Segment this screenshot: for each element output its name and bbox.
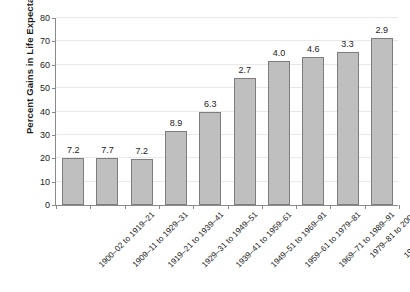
x-tick-mark — [228, 205, 229, 209]
x-tick-mark — [365, 205, 366, 209]
bar — [131, 159, 153, 205]
y-tick-label: 80 — [40, 13, 50, 23]
x-tick-mark — [262, 205, 263, 209]
y-tick-label: 60 — [40, 60, 50, 70]
bar — [337, 52, 359, 205]
x-axis-labels: 1900–02 to 1919–211909–11 to 1929–311919… — [0, 210, 410, 292]
bar — [62, 158, 84, 205]
bar — [234, 78, 256, 205]
bar-value-label: 7.7 — [101, 145, 114, 155]
x-tick-mark — [399, 205, 400, 209]
bar — [96, 158, 118, 205]
bar-value-label: 7.2 — [67, 145, 80, 155]
y-tick-label: 0 — [45, 200, 50, 210]
x-tick-mark — [90, 205, 91, 209]
y-tick-label: 20 — [40, 153, 50, 163]
bar-value-label: 4.0 — [273, 48, 286, 58]
x-tick-mark — [56, 205, 57, 209]
x-tick-mark — [193, 205, 194, 209]
bar-value-label: 4.6 — [307, 44, 320, 54]
plot-area: 01020304050607080 7.27.77.28.96.32.74.04… — [55, 18, 398, 206]
bar — [268, 61, 290, 205]
bar-value-label: 2.9 — [376, 25, 389, 35]
bar-value-label: 6.3 — [204, 99, 217, 109]
bar-slot: 7.2 — [56, 18, 90, 205]
bar-value-label: 2.7 — [238, 65, 251, 75]
bar-slot: 3.3 — [330, 18, 364, 205]
bar-slot: 4.0 — [262, 18, 296, 205]
bar-slot: 2.7 — [228, 18, 262, 205]
y-axis-title: Percent Gains in Life Expectancy — [24, 0, 35, 145]
y-tick-label: 50 — [40, 83, 50, 93]
y-tick-label: 40 — [40, 107, 50, 117]
bar-value-label: 8.9 — [170, 118, 183, 128]
bar — [199, 112, 221, 205]
bar-slot: 7.2 — [125, 18, 159, 205]
bar-slot: 7.7 — [90, 18, 124, 205]
y-tick-label: 30 — [40, 130, 50, 140]
bar — [371, 38, 393, 205]
bar-slot: 2.9 — [365, 18, 399, 205]
x-tick-mark — [125, 205, 126, 209]
bar — [302, 57, 324, 205]
x-axis-category-label: 1900–02 to 1919–21 — [97, 210, 156, 269]
bar-slot: 4.6 — [296, 18, 330, 205]
y-tick-label: 70 — [40, 36, 50, 46]
x-tick-mark — [296, 205, 297, 209]
bar-value-label: 7.2 — [135, 146, 148, 156]
x-tick-mark — [330, 205, 331, 209]
bar-value-label: 3.3 — [341, 39, 354, 49]
bar — [165, 131, 187, 205]
bar-chart: Percent Gains in Life Expectancy 0102030… — [0, 0, 410, 292]
x-tick-mark — [159, 205, 160, 209]
y-tick-label: 10 — [40, 177, 50, 187]
bar-slot: 6.3 — [193, 18, 227, 205]
bar-slot: 8.9 — [159, 18, 193, 205]
